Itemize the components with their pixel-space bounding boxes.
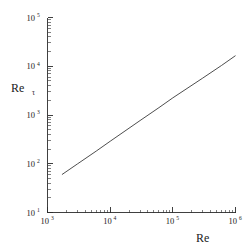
y-tick-exponent: 5 (37, 12, 40, 18)
x-tick-exponent: 5 (176, 215, 179, 221)
y-tick-label: 10 (27, 61, 36, 71)
x-tick-exponent: 3 (51, 215, 54, 221)
chart-figure: 103104105106 101102103104105 Re Re τ (0, 0, 250, 249)
chart-svg: 103104105106 101102103104105 Re Re τ (0, 0, 250, 249)
y-tick-label: 10 (27, 110, 36, 120)
y-tick-exponent: 1 (37, 207, 40, 213)
x-tick-exponent: 6 (239, 215, 242, 221)
y-tick-exponent: 3 (37, 109, 40, 115)
x-tick-label: 10 (229, 216, 238, 226)
y-tick-label: 10 (27, 208, 36, 218)
x-tick-label: 10 (166, 216, 175, 226)
y-tick-exponent: 2 (37, 158, 40, 164)
y-tick-exponent: 4 (37, 61, 40, 67)
x-axis-title-text: Re (196, 231, 209, 245)
x-tick-exponent: 4 (114, 215, 117, 221)
x-tick-label: 10 (103, 216, 112, 226)
y-tick-label: 10 (27, 159, 36, 169)
y-axis-title-subscript: τ (32, 88, 35, 97)
y-tick-label: 10 (27, 13, 36, 23)
y-axis-title-text: Re (11, 81, 24, 95)
x-tick-label: 10 (41, 216, 50, 226)
x-axis-title: Re (196, 231, 209, 245)
